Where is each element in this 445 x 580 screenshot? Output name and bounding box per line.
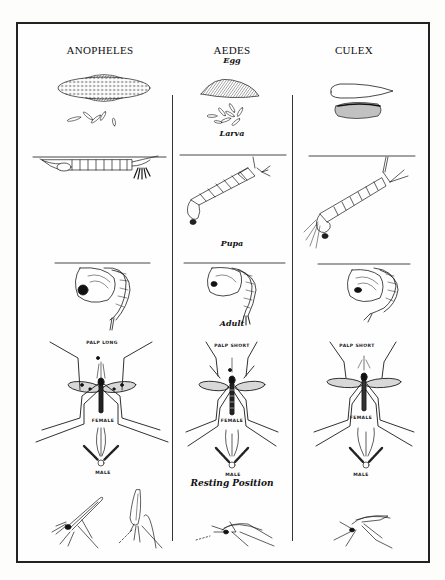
illustrations [0,0,445,580]
adult-female-anopheles-icon [36,342,168,442]
resting-anopheles-icon [52,490,162,548]
male-head-culex-icon [350,428,382,468]
male-head-aedes-icon [216,430,248,468]
larva-aedes-icon [187,157,270,225]
pupa-culex-icon [347,268,398,322]
resting-culex-icon [334,516,392,548]
male-head-anopheles-icon [84,428,118,466]
adult-female-culex-icon [314,342,414,446]
egg-aedes-icon [201,79,259,126]
egg-anopheles-icon [58,75,150,127]
water-surface-larva [33,155,415,157]
resting-aedes-icon [196,522,274,546]
water-surface-pupa [55,263,410,264]
pupa-aedes-icon [207,268,256,326]
larva-culex-icon [304,157,408,248]
larva-anopheles-icon [40,156,158,179]
adult-female-aedes-icon [186,342,278,446]
pupa-anopheles-icon [75,268,130,330]
egg-culex-icon [331,84,393,119]
